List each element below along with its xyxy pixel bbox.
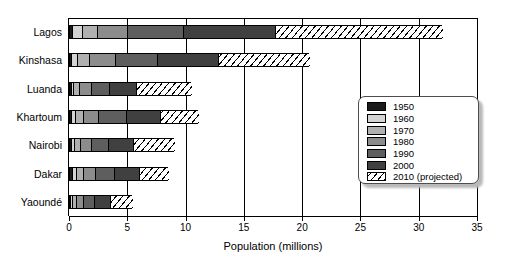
- x-tick-label: 35: [471, 222, 482, 233]
- legend-item: 2010 (projected): [367, 171, 478, 183]
- bar-row: Yaoundé: [69, 195, 477, 209]
- legend-swatch: [367, 126, 386, 135]
- bar-segment: [158, 54, 219, 66]
- x-tick-label: 20: [297, 222, 308, 233]
- bar-segment: [95, 196, 111, 208]
- bar-segment: [81, 139, 93, 151]
- legend-item: 1990: [367, 148, 478, 160]
- bar-segment: [80, 83, 92, 95]
- bar-segment: [140, 168, 169, 180]
- bar-segment: [77, 196, 85, 208]
- legend-swatch: [367, 137, 386, 146]
- bar-row: Lagos: [69, 25, 477, 39]
- bar-row: Luanda: [69, 82, 477, 96]
- bar-segment: [115, 168, 141, 180]
- legend-item: 1950: [367, 101, 478, 113]
- chart-legend: 1950196019701980199020002010 (projected): [358, 96, 479, 184]
- bar-segment: [73, 26, 82, 38]
- bar-segment: [276, 26, 443, 38]
- legend-label: 2010 (projected): [393, 171, 462, 182]
- bar-segment: [83, 26, 98, 38]
- legend-item: 1970: [367, 124, 478, 136]
- stacked-bar: [69, 167, 168, 181]
- bar-segment: [99, 111, 127, 123]
- legend-label: 1980: [393, 136, 414, 147]
- bar-segment: [92, 83, 111, 95]
- x-tick-label: 25: [355, 222, 366, 233]
- population-bar-chart: 05101520253035 LagosKinshasaLuandaKharto…: [0, 0, 515, 272]
- stacked-bar: [69, 138, 174, 152]
- legend-swatch: [367, 149, 386, 158]
- stacked-bar: [69, 110, 198, 124]
- x-axis-title: Population (millions): [68, 240, 478, 252]
- stacked-bar: [69, 82, 191, 96]
- legend-label: 1990: [393, 148, 414, 159]
- legend-label: 2000: [393, 160, 414, 171]
- bar-segment: [78, 54, 91, 66]
- bar-segment: [96, 168, 115, 180]
- bar-segment: [84, 168, 96, 180]
- plot-top-border: [69, 18, 477, 19]
- bar-segment: [111, 196, 133, 208]
- legend-swatch: [367, 114, 386, 123]
- bar-segment: [219, 54, 310, 66]
- x-tick-mark: [244, 216, 245, 221]
- x-tick-mark: [302, 216, 303, 221]
- legend-swatch: [367, 102, 386, 111]
- bar-segment: [128, 26, 184, 38]
- stacked-bar: [69, 195, 132, 209]
- category-label: Dakar: [34, 168, 62, 180]
- x-tick-mark: [69, 216, 70, 221]
- x-tick-label: 30: [413, 222, 424, 233]
- bar-segment: [98, 26, 128, 38]
- x-tick-label: 10: [180, 222, 191, 233]
- legend-swatch: [367, 172, 386, 181]
- bar-segment: [77, 168, 84, 180]
- bar-segment: [134, 139, 175, 151]
- bar-segment: [137, 83, 192, 95]
- bar-segment: [127, 111, 161, 123]
- stacked-bar: [69, 25, 442, 39]
- legend-label: 1950: [393, 101, 414, 112]
- category-label: Luanda: [27, 83, 62, 95]
- x-tick-label: 5: [125, 222, 131, 233]
- bar-segment: [90, 54, 116, 66]
- bar-segment: [76, 111, 85, 123]
- legend-label: 1960: [393, 113, 414, 124]
- bar-segment: [92, 139, 108, 151]
- legend-item: 2000: [367, 159, 478, 171]
- x-tick-label: 0: [66, 222, 72, 233]
- bar-segment: [116, 54, 158, 66]
- category-label: Khartoum: [16, 111, 62, 123]
- bar-segment: [110, 83, 137, 95]
- plot-bottom-border: [69, 216, 477, 217]
- category-label: Lagos: [33, 26, 62, 38]
- bar-segment: [161, 111, 198, 123]
- bar-segment: [84, 196, 94, 208]
- bar-row: Kinshasa: [69, 53, 477, 67]
- x-tick-mark: [127, 216, 128, 221]
- legend-swatch: [367, 161, 386, 170]
- bar-segment: [84, 111, 99, 123]
- category-label: Kinshasa: [19, 54, 62, 66]
- x-tick-mark: [360, 216, 361, 221]
- category-label: Nairobi: [29, 139, 62, 151]
- x-tick-mark: [477, 216, 478, 221]
- category-label: Yaoundé: [21, 196, 62, 208]
- bar-segment: [109, 139, 135, 151]
- x-tick-mark: [419, 216, 420, 221]
- legend-item: 1980: [367, 136, 478, 148]
- legend-label: 1970: [393, 125, 414, 136]
- bar-segment: [184, 26, 276, 38]
- legend-item: 1960: [367, 113, 478, 125]
- stacked-bar: [69, 53, 309, 67]
- x-tick-mark: [186, 216, 187, 221]
- x-tick-label: 15: [238, 222, 249, 233]
